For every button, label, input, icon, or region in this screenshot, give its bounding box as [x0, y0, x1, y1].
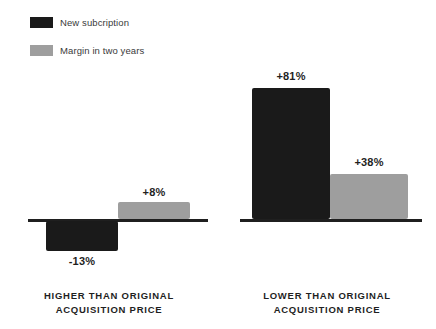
- category-label-lower-line2: ACQUISITION PRICE: [218, 303, 436, 317]
- value-label-margin-higher: +8%: [118, 186, 190, 198]
- category-label-lower-than-original: LOWER THAN ORIGINAL ACQUISITION PRICE: [218, 289, 436, 317]
- bar-group-higher-than-original: -13% +8% HIGHER THAN ORIGINAL ACQUISITIO…: [0, 0, 218, 329]
- bar-margin-lower: [330, 174, 408, 219]
- value-label-new-subscription-lower: +81%: [252, 70, 330, 82]
- category-label-higher-line2: ACQUISITION PRICE: [0, 303, 218, 317]
- category-label-higher-than-original: HIGHER THAN ORIGINAL ACQUISITION PRICE: [0, 289, 218, 317]
- bar-margin-higher: [118, 202, 190, 219]
- bar-chart-plot-area: -13% +8% HIGHER THAN ORIGINAL ACQUISITIO…: [0, 0, 436, 329]
- bar-group-lower-than-original: +81% +38% LOWER THAN ORIGINAL ACQUISITIO…: [218, 0, 436, 329]
- category-label-lower-line1: LOWER THAN ORIGINAL: [218, 289, 436, 303]
- category-label-higher-line1: HIGHER THAN ORIGINAL: [0, 289, 218, 303]
- value-label-margin-lower: +38%: [330, 156, 408, 168]
- zero-baseline-right: [240, 219, 422, 222]
- bar-new-subscription-lower: [252, 88, 330, 219]
- bar-new-subscription-higher: [46, 221, 118, 251]
- value-label-new-subscription-higher: -13%: [46, 255, 118, 267]
